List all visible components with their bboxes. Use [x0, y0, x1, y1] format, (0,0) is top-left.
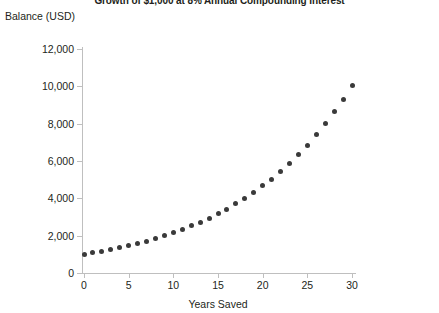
data-point [207, 216, 212, 221]
data-point [296, 152, 301, 157]
data-point [153, 236, 158, 241]
data-point [135, 241, 140, 246]
x-tick-label: 25 [301, 279, 313, 291]
data-point [260, 183, 265, 188]
y-axis-line [82, 47, 83, 274]
y-tick-label: 10,000 [4, 80, 74, 92]
x-tick-mark [352, 273, 353, 278]
y-tick-label: 2,000 [4, 230, 74, 242]
x-tick-mark [218, 273, 219, 278]
data-point [189, 223, 194, 228]
data-point [224, 207, 229, 212]
x-tick-label: 15 [212, 279, 224, 291]
data-point [162, 233, 167, 238]
y-tick-label: 8,000 [4, 118, 74, 130]
data-point [144, 239, 149, 244]
data-point [171, 230, 176, 235]
data-point [180, 227, 185, 232]
y-tick-label: 12,000 [4, 43, 74, 55]
data-point [216, 211, 221, 216]
x-tick-mark [173, 273, 174, 278]
x-tick-label: 10 [167, 279, 179, 291]
y-tick-label: 4,000 [4, 192, 74, 204]
y-tick-mark [77, 236, 82, 237]
data-point [242, 196, 247, 201]
data-point [251, 190, 256, 195]
data-point [233, 201, 238, 206]
compound-interest-chart: Growth of $1,000 at 8% Annual Compoundin… [0, 0, 439, 313]
x-tick-mark [129, 273, 130, 278]
data-point [90, 250, 95, 255]
data-point [117, 245, 122, 250]
x-tick-mark [84, 273, 85, 278]
data-point [287, 161, 292, 166]
data-point [341, 97, 346, 102]
y-tick-mark [77, 86, 82, 87]
x-tick-label: 30 [346, 279, 358, 291]
data-point [305, 143, 310, 148]
data-point [350, 83, 355, 88]
data-point [198, 220, 203, 225]
data-point [269, 177, 274, 182]
data-point [323, 121, 328, 126]
data-point [126, 243, 131, 248]
data-point [278, 169, 283, 174]
y-tick-mark [77, 273, 82, 274]
x-axis-title: Years Saved [0, 298, 439, 310]
x-axis-title-text: Years Saved [188, 298, 247, 310]
data-point [332, 109, 337, 114]
x-tick-label: 20 [257, 279, 269, 291]
y-tick-mark [77, 124, 82, 125]
x-tick-mark [307, 273, 308, 278]
y-tick-mark [77, 198, 82, 199]
x-tick-label: 0 [81, 279, 87, 291]
data-point [108, 247, 113, 252]
data-point [82, 252, 87, 257]
y-tick-label: 6,000 [4, 155, 74, 167]
y-tick-label: 0 [4, 267, 74, 279]
data-point [314, 132, 319, 137]
x-tick-mark [263, 273, 264, 278]
x-axis-line [82, 273, 356, 274]
plot-area: 02,0004,0006,0008,00010,00012,000 051015… [0, 0, 439, 313]
y-tick-mark [77, 161, 82, 162]
data-point [99, 249, 104, 254]
y-tick-mark [77, 49, 82, 50]
x-tick-label: 5 [126, 279, 132, 291]
